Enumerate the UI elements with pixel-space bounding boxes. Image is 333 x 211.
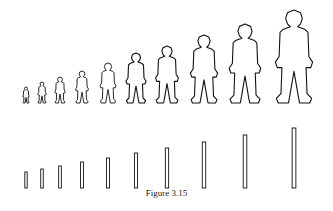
human-figure-6 [126, 53, 146, 103]
human-figure-3 [55, 77, 65, 103]
human-figure-7 [156, 46, 179, 103]
human-figure-4 [76, 71, 89, 103]
bar-6 [134, 153, 137, 188]
human-figure-5 [100, 63, 116, 103]
bar-8 [202, 142, 205, 188]
bar-7 [165, 148, 168, 188]
bar-3 [59, 166, 62, 188]
bar-1 [25, 172, 27, 188]
figure-caption: Figure 3.15 [0, 188, 333, 198]
human-figures-row [23, 10, 313, 103]
bar-5 [107, 158, 110, 188]
bar-4 [81, 162, 84, 188]
bars-row [25, 128, 296, 188]
human-figure-10 [275, 10, 312, 103]
bar-9 [243, 135, 247, 188]
figure-diagram [0, 0, 333, 211]
human-figure-9 [229, 24, 261, 103]
human-figure-2 [38, 82, 46, 103]
human-figure-1 [23, 87, 29, 103]
bar-2 [41, 169, 44, 188]
bar-10 [292, 128, 296, 188]
human-figure-8 [190, 35, 217, 103]
